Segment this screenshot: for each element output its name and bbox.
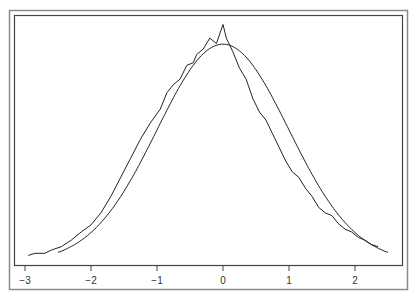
plot-lines — [28, 25, 388, 256]
empirical-curve — [28, 25, 378, 256]
x-axis-ticks: −3−2−1012 — [19, 266, 358, 286]
x-tick-label: 1 — [286, 275, 292, 286]
x-tick-label: −1 — [151, 275, 163, 286]
density-chart: −3−2−1012 — [0, 0, 417, 298]
x-tick-label: −3 — [19, 275, 31, 286]
normal-curve — [58, 44, 388, 252]
x-tick-label: 0 — [220, 275, 226, 286]
x-tick-label: 2 — [352, 275, 358, 286]
x-tick-label: −2 — [85, 275, 97, 286]
